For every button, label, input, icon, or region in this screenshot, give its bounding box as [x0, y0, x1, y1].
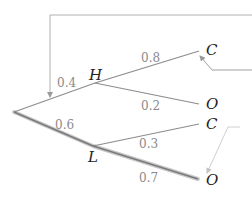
prob-root-h: 0.4: [57, 76, 76, 90]
branch-root-h: [14, 83, 95, 112]
node-h: H: [88, 66, 103, 84]
node-l-c: C: [206, 115, 218, 133]
prob-h-o: 0.2: [141, 99, 160, 113]
annotation-arrow-o: [207, 127, 240, 173]
branch-root-l: [14, 112, 93, 146]
node-h-c: C: [206, 41, 218, 59]
prob-l-o: 0.7: [139, 171, 158, 185]
probability-tree-diagram: 0.4 0.6 0.8 0.2 0.3 0.7 H L C O C O: [0, 0, 252, 204]
prob-l-c: 0.3: [139, 137, 158, 151]
prob-root-l: 0.6: [55, 118, 74, 132]
node-l-o: O: [206, 171, 218, 189]
node-h-o: O: [206, 95, 218, 113]
node-l: L: [87, 148, 98, 166]
highlighted-path: [14, 112, 198, 179]
prob-h-c: 0.8: [141, 51, 160, 65]
